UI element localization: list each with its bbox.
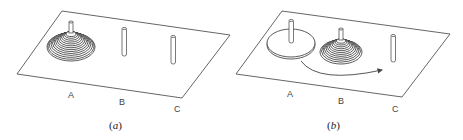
label-peg-c: C bbox=[392, 104, 399, 114]
label-peg-a: A bbox=[68, 90, 74, 100]
label-peg-b: B bbox=[119, 97, 125, 107]
caption-a: (a) bbox=[109, 119, 122, 132]
peg-a bbox=[289, 20, 294, 44]
label-peg-a: A bbox=[287, 89, 293, 99]
peg-c bbox=[391, 35, 396, 63]
caption-b: (b) bbox=[327, 119, 340, 132]
peg-b bbox=[339, 28, 343, 40]
label-peg-b: B bbox=[338, 96, 344, 106]
peg-b bbox=[122, 28, 127, 57]
tower-of-hanoi-diagram: A B C (a) bbox=[0, 0, 463, 140]
peg-c bbox=[171, 36, 176, 65]
panel-b: A B C (b) bbox=[236, 11, 450, 132]
panel-a: A B C (a) bbox=[17, 11, 230, 132]
label-peg-c: C bbox=[174, 104, 181, 114]
peg-a bbox=[69, 21, 73, 33]
